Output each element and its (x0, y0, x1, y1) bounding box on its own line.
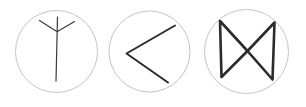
symbol-sheet (0, 0, 306, 107)
symbol-circle-outline (109, 11, 190, 92)
right-arm-stroke (58, 22, 75, 32)
vertical-stem-stroke (56, 17, 58, 81)
chevron-stroke (127, 26, 176, 83)
left-chevron-symbol (109, 11, 190, 92)
bowtie-symbol (205, 10, 289, 94)
y-rune-symbol (16, 11, 98, 93)
symbol-canvas (0, 0, 306, 107)
left-triangle-stroke (220, 21, 248, 77)
right-triangle-stroke (248, 23, 275, 80)
left-arm-stroke (40, 21, 57, 32)
